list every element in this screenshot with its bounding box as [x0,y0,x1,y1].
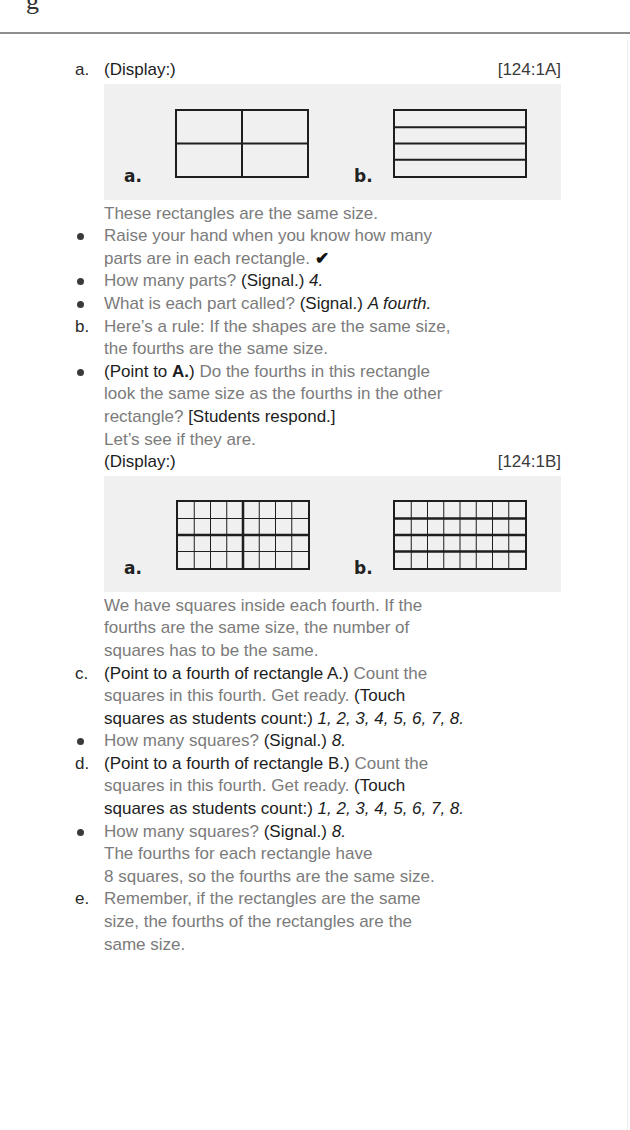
bullet-item: How many parts? (Signal.) 4. [75,270,561,293]
student-answer: 1, 2, 3, 4, 5, 6, 7, 8. [313,799,464,818]
page-edge [627,40,628,1130]
signal-direction: (Signal.) [300,294,363,313]
display-line: (Display:) [124:1B] [75,451,561,474]
point-direction-target: A. [172,362,189,381]
figure-label-b: b. [354,166,373,186]
figure-124-1b: a. b. [104,476,561,592]
figure-124-1a: a. b. [104,84,561,200]
bullet-continuation: parts are in each rectangle. ✔ [75,248,561,271]
bullet-icon [77,829,84,836]
step-d-continuation: squares in this fourth. Get ready. (Touc… [75,775,561,798]
signal-direction: (Signal.) [264,822,327,841]
step-marker-e: e. [75,888,89,911]
point-direction: (Point to a fourth of rectangle B.) [104,754,350,773]
figure-label-a: a. [124,558,142,578]
lesson-script: a. (Display:) [124:1A] a. b. These recta… [75,59,561,956]
step-c-continuation: squares as students count:) 1, 2, 3, 4, … [75,708,561,731]
bullet-item: How many squares? (Signal.) 8. [75,821,561,844]
point-direction: (Point to a fourth of rectangle A.) [104,664,349,683]
rectangle-a-quarters-grid [175,109,309,178]
step-c: c. (Point to a fourth of rectangle A.) C… [75,663,561,686]
conclusion-text: 8 squares, so the fourths are the same s… [75,866,561,889]
step-c-continuation: squares in this fourth. Get ready. (Touc… [75,685,561,708]
bullet-icon [77,738,84,745]
step-marker-b: b. [75,316,89,339]
step-a-display: a. (Display:) [124:1A] [75,59,561,82]
bullet-item: Raise your hand when you know how many [75,225,561,248]
touch-direction: (Touch [349,686,405,705]
bullet-icon [77,233,84,240]
header-divider [0,32,630,34]
bullet-icon [77,369,84,376]
step-b: b. Here’s a rule: If the shapes are the … [75,316,561,339]
student-answer: 8. [332,731,346,750]
display-reference: [124:1B] [498,451,561,474]
step-e-continuation: same size. [75,934,561,957]
step-marker-d: d. [75,753,89,776]
display-direction: (Display:) [104,452,176,471]
students-respond-direction: [Students respond.] [188,407,335,426]
explanation-text: fourths are the same size, the number of [75,617,561,640]
figure-label-b: b. [354,558,373,578]
figure-label-a: a. [124,166,142,186]
signal-direction: (Signal.) [264,731,327,750]
step-d: d. (Point to a fourth of rectangle B.) C… [75,753,561,776]
bullet-continuation: rectangle? [Students respond.] [75,406,561,429]
step-e: e. Remember, if the rectangles are the s… [75,888,561,911]
display-reference: [124:1A] [498,59,561,82]
step-marker-c: c. [75,663,88,686]
bullet-item: (Point to A.) Do the fourths in this rec… [75,361,561,384]
student-answer: 4. [309,271,323,290]
bullet-icon [77,278,84,285]
student-answer: 1, 2, 3, 4, 5, 6, 7, 8. [313,709,464,728]
touch-direction: (Touch [349,776,405,795]
rectangle-b-squares-grid [393,500,527,570]
student-answer: A fourth. [368,294,432,313]
step-e-continuation: size, the fourths of the rectangles are … [75,911,561,934]
bullet-continuation: look the same size as the fourths in the… [75,383,561,406]
bullet-item: What is each part called? (Signal.) A fo… [75,293,561,316]
explanation-text: squares has to be the same. [75,640,561,663]
touch-direction: squares as students count:) [104,799,313,818]
display-direction: (Display:) [104,60,176,79]
student-answer: 8. [332,822,346,841]
page-header-fragment: g [26,0,39,16]
rectangle-a-squares-grid [176,500,310,570]
bullet-continuation: Let’s see if they are. [75,429,561,452]
checkmark-icon: ✔ [315,249,329,268]
point-direction-open: (Point to [104,362,172,381]
bullet-icon [77,301,84,308]
touch-direction: squares as students count:) [104,709,313,728]
signal-direction: (Signal.) [241,271,304,290]
step-marker-a: a. [75,59,89,82]
rectangle-b-quarter-strips [393,109,527,178]
explanation-text: We have squares inside each fourth. If t… [75,595,561,618]
bullet-item: How many squares? (Signal.) 8. [75,730,561,753]
step-b-continuation: the fourths are the same size. [75,338,561,361]
intro-text: These rectangles are the same size. [75,203,561,226]
step-d-continuation: squares as students count:) 1, 2, 3, 4, … [75,798,561,821]
conclusion-text: The fourths for each rectangle have [75,843,561,866]
